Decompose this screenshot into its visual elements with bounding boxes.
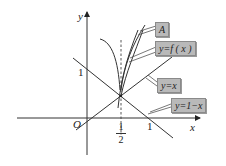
fraction-numerator: 1 xyxy=(119,121,124,132)
origin-label: O xyxy=(73,119,81,130)
x-axis-label: x xyxy=(190,122,195,133)
y-tick-label-1: 1 xyxy=(78,67,84,78)
x-tick-label-1: 1 xyxy=(147,121,153,132)
callout-A: A xyxy=(155,22,169,37)
fraction-denominator: 2 xyxy=(119,134,124,145)
x-tick-label-half: 1 2 xyxy=(116,122,126,145)
leader-fx xyxy=(130,47,156,58)
intersection-point xyxy=(120,95,122,97)
callout-y-equals-f-of-x: y=f ( x ) xyxy=(155,41,196,56)
graph-canvas xyxy=(0,0,226,166)
function-graph-diagram: y x O 1 1 1 2 A y=f ( x ) y=x y=1−x xyxy=(0,0,226,166)
line-y-equals-x xyxy=(76,57,172,130)
y-axis-label: y xyxy=(78,11,83,22)
leader-yx xyxy=(148,75,157,82)
leader-yx-2 xyxy=(146,78,157,86)
curve-f-of-x-3 xyxy=(121,30,143,96)
callout-y-equals-x: y=x xyxy=(157,78,181,93)
callout-y-equals-1-minus-x: y=1−x xyxy=(171,98,206,113)
